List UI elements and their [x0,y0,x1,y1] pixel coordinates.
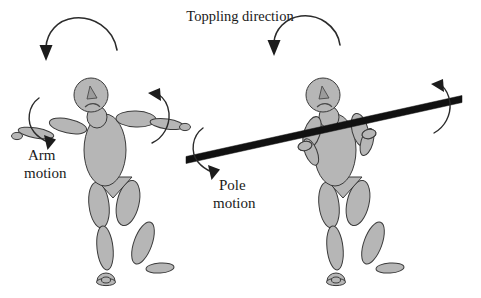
page-title: Toppling direction [186,8,294,24]
left-figure-left-upper-arm [116,110,157,127]
arm-motion-label-line2: motion [24,165,67,181]
right-figure [297,78,404,286]
left-figure-front-calf [95,225,116,270]
left-figure-right-hand [12,132,23,139]
arm-motion-arrow-right-head [148,88,161,101]
toppling-arrow-left-head [40,45,53,61]
left-figure-left-arm [116,110,191,131]
left-figure-back-foot [146,262,175,274]
right-figure-front-calf [325,225,346,270]
pole-motion-label-line1: Pole [219,177,246,193]
left-figure-left-hand [180,123,191,130]
pole-motion-arrow-right-head [431,79,444,92]
toppling-arrow-right-head [268,40,281,56]
right-figure-front-foot-inner [332,277,341,283]
left-figure-back-calf [127,219,159,267]
toppling-arrow-left [40,18,118,61]
left-figure-right-upper-arm [48,115,88,137]
right-figure-back-foot [376,262,405,274]
diagram-svg: Toppling direction [0,0,481,298]
left-figure-left-forearm [149,117,184,132]
left-figure [12,78,191,286]
left-figure-back-leg [112,178,174,274]
right-figure-back-leg [342,178,404,274]
diagram-canvas: Toppling direction [0,0,481,298]
arm-motion-label-line1: Arm [28,147,56,163]
right-figure-back-calf [357,219,389,267]
left-figure-front-foot-inner [102,277,111,283]
pole-motion-label-line2: motion [213,195,256,211]
